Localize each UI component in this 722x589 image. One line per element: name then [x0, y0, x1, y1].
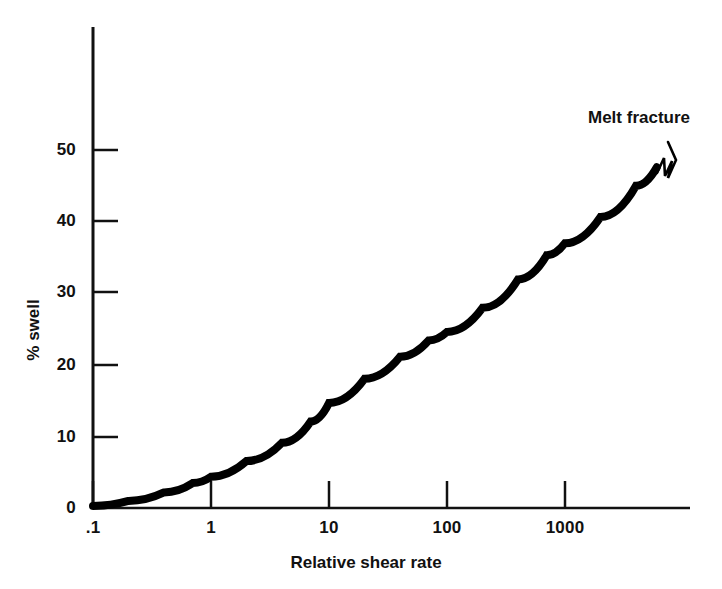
chart-figure: 50 40 30 20 10 0 .1 1 10 100 1000 Relati… — [0, 0, 722, 589]
x-tick-label-0.1: .1 — [86, 518, 101, 538]
y-tick-label-50: 50 — [36, 140, 76, 160]
melt-fracture-annotation-label: Melt fracture — [588, 108, 690, 128]
melt-fracture-zigzag-icon — [657, 142, 676, 178]
x-tick-label-10: 10 — [319, 518, 338, 538]
x-tick-label-1000: 1000 — [546, 518, 585, 538]
swell-curve — [93, 167, 657, 506]
y-axis-title: % swell — [24, 299, 44, 360]
y-tick-label-10: 10 — [36, 427, 76, 447]
y-tick-label-40: 40 — [36, 211, 76, 231]
y-axis-ticks — [93, 150, 118, 437]
x-axis-title: Relative shear rate — [290, 553, 441, 573]
x-tick-label-1: 1 — [206, 518, 216, 538]
chart-plot-area — [0, 0, 722, 589]
y-tick-label-0: 0 — [36, 498, 76, 518]
x-tick-label-100: 100 — [433, 518, 462, 538]
